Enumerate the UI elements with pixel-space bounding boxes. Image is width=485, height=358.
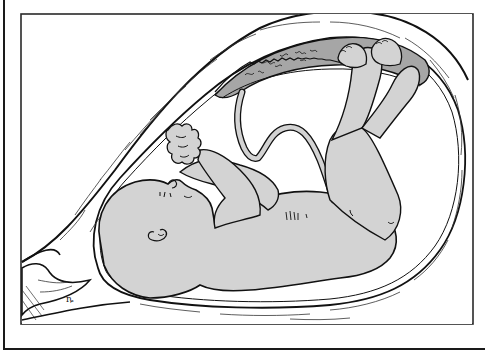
hands [166,124,201,164]
cervix-mark: ȵ [66,294,74,304]
fetus-illustration: ȵ [0,0,485,358]
